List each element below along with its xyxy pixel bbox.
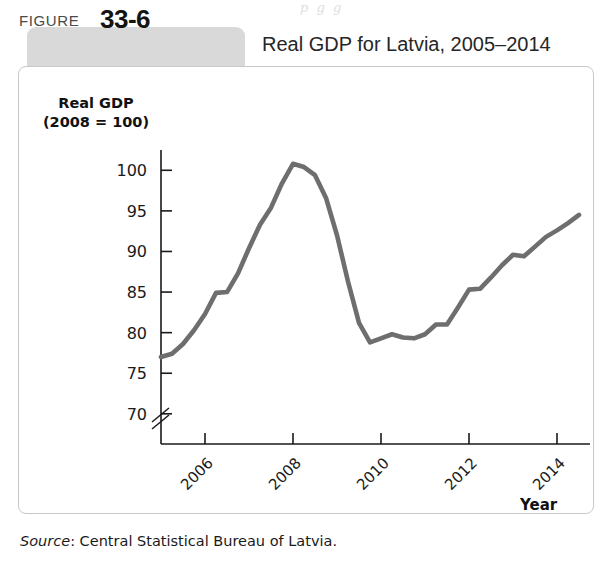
y-tick-label: 75 xyxy=(127,364,147,383)
x-tick-label: 2010 xyxy=(353,454,393,494)
x-tick-label: 2012 xyxy=(441,454,481,494)
x-axis-title: Year xyxy=(520,496,557,514)
gdp-series-line xyxy=(161,164,579,357)
source-note: Source: Central Statistical Bureau of La… xyxy=(20,533,337,549)
y-tick-label: 100 xyxy=(116,161,147,180)
y-tick-label: 85 xyxy=(127,283,147,302)
x-tick-label: 2014 xyxy=(529,454,569,494)
y-tick-label: 95 xyxy=(127,202,147,221)
x-tick-label: 2006 xyxy=(177,454,217,494)
y-tick-label: 80 xyxy=(127,324,147,343)
y-tick-label: 70 xyxy=(127,405,147,424)
y-tick-mark-group xyxy=(161,170,172,414)
source-text: : Central Statistical Bureau of Latvia. xyxy=(70,533,337,549)
source-label: Source xyxy=(20,533,70,549)
line-chart: 707580859095100 20062008201020122014 xyxy=(0,0,612,566)
y-tick-label: 90 xyxy=(127,242,147,261)
y-tick-label-group: 707580859095100 xyxy=(116,161,147,424)
x-tick-label-group: 20062008201020122014 xyxy=(177,454,569,494)
x-tick-mark-group xyxy=(205,433,557,444)
x-tick-label: 2008 xyxy=(265,454,305,494)
